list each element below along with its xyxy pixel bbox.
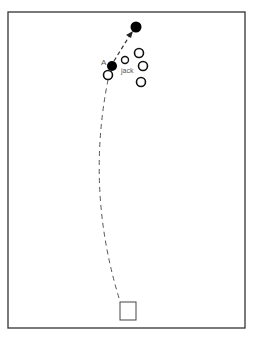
- jack-label: jack: [120, 67, 134, 75]
- open-bowl: [137, 78, 146, 87]
- open-bowl: [104, 71, 113, 80]
- open-bowl: [139, 62, 148, 71]
- knocked-bowl: [131, 22, 142, 33]
- mat: [120, 302, 136, 320]
- bowl-a: [107, 61, 117, 71]
- bowl-a-label: A: [101, 58, 107, 67]
- delivery-path: [99, 80, 119, 298]
- bowls-diagram: A jack: [0, 0, 253, 340]
- open-bowl: [135, 49, 144, 58]
- jack: [122, 57, 129, 64]
- arrowhead-icon: [126, 31, 133, 38]
